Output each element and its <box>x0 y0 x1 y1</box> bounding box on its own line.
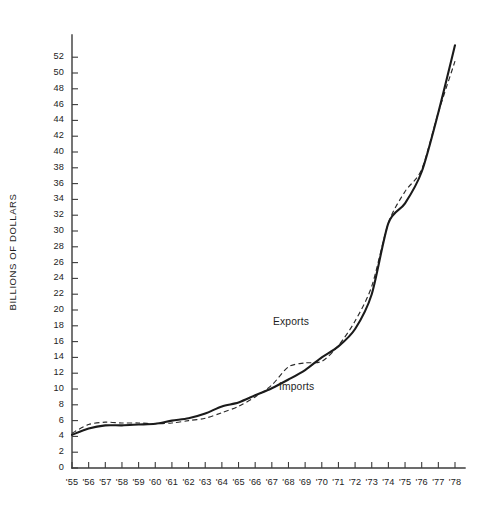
y-tick-label: 22 <box>42 290 64 299</box>
x-axis-tick-marks <box>72 462 455 468</box>
x-tick-label: '78 <box>443 478 467 487</box>
series-label-imports: Imports <box>279 381 314 392</box>
y-tick-label: 12 <box>42 369 64 378</box>
series-label-exports: Exports <box>273 316 309 327</box>
y-tick-label: 2 <box>42 448 64 457</box>
y-tick-label: 18 <box>42 321 64 330</box>
chart-plot-area <box>0 0 492 507</box>
y-tick-label: 4 <box>42 432 64 441</box>
y-tick-label: 8 <box>42 400 64 409</box>
chart-figure: BILLIONS OF DOLLARS 02468101214161820222… <box>0 0 492 507</box>
y-tick-label: 46 <box>42 100 64 109</box>
y-tick-label: 50 <box>42 68 64 77</box>
y-tick-label: 48 <box>42 84 64 93</box>
y-tick-label: 14 <box>42 353 64 362</box>
y-axis-title: BILLIONS OF DOLLARS <box>7 193 18 310</box>
y-tick-label: 38 <box>42 163 64 172</box>
y-tick-label: 26 <box>42 258 64 267</box>
y-tick-label: 16 <box>42 337 64 346</box>
y-tick-label: 34 <box>42 195 64 204</box>
y-tick-label: 6 <box>42 416 64 425</box>
y-tick-label: 30 <box>42 226 64 235</box>
y-tick-label: 42 <box>42 132 64 141</box>
y-tick-label: 40 <box>42 147 64 156</box>
y-axis-tick-marks <box>72 57 78 468</box>
series-line-exports <box>72 45 455 434</box>
y-tick-label: 32 <box>42 211 64 220</box>
chart-axes <box>72 35 465 468</box>
y-tick-label: 10 <box>42 384 64 393</box>
y-tick-label: 0 <box>42 463 64 472</box>
y-tick-label: 44 <box>42 116 64 125</box>
y-tick-label: 20 <box>42 305 64 314</box>
y-tick-label: 52 <box>42 53 64 62</box>
y-tick-label: 24 <box>42 274 64 283</box>
y-tick-label: 36 <box>42 179 64 188</box>
y-tick-label: 28 <box>42 242 64 251</box>
series-line-imports <box>72 61 455 433</box>
